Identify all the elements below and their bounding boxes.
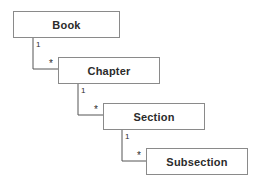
uml-class-box-subsection[interactable]: Subsection bbox=[146, 148, 248, 175]
multiplicity-chapter-one: 1 bbox=[81, 87, 85, 95]
multiplicity-book-one: 1 bbox=[36, 41, 40, 49]
multiplicity-subsection-many: * bbox=[137, 151, 141, 161]
uml-class-name-subsection: Subsection bbox=[166, 156, 227, 168]
multiplicity-chapter-many: * bbox=[49, 59, 53, 69]
uml-class-box-chapter[interactable]: Chapter bbox=[58, 57, 160, 84]
uml-class-name-chapter: Chapter bbox=[88, 65, 131, 77]
uml-class-box-book[interactable]: Book bbox=[13, 11, 120, 38]
multiplicity-section-one: 1 bbox=[125, 133, 129, 141]
uml-class-box-section[interactable]: Section bbox=[103, 103, 205, 130]
uml-class-name-section: Section bbox=[133, 111, 174, 123]
uml-class-name-book: Book bbox=[52, 19, 80, 31]
uml-diagram-canvas: Book Chapter Section Subsection 1 * 1 * … bbox=[0, 0, 259, 188]
multiplicity-section-many: * bbox=[94, 105, 98, 115]
